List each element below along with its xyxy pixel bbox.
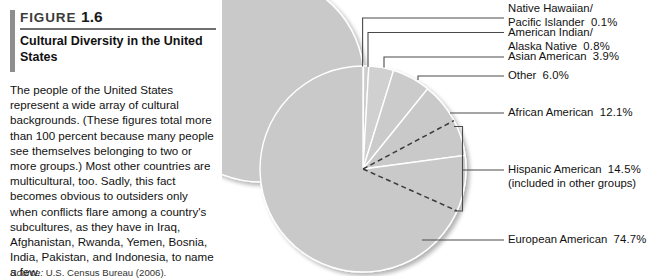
figure-caption-text: The people of the United States represen… [10, 82, 215, 280]
figure-divider [20, 28, 216, 30]
callout-text: Hispanic American [508, 163, 602, 175]
callout-text: African American [508, 106, 593, 118]
source-text: U.S. Census Bureau (2006). [46, 267, 167, 278]
pie-chart-area: Native Hawaiian/ Pacific Islander 0.1% A… [222, 0, 662, 276]
figure-caption-column: FIGURE 1.6 Cultural Diversity in the Uni… [0, 0, 222, 276]
callout-value: 6.0% [543, 69, 570, 81]
callout-asian-american: Asian American 3.9% [508, 50, 619, 64]
callout-european-american: European American 74.7% [508, 233, 647, 247]
figure-title: Cultural Diversity in the United States [10, 34, 205, 65]
callout-line-2: (included in other groups) [508, 177, 641, 191]
callout-line-1: African American 12.1% [508, 106, 633, 120]
figure-number: 1.6 [81, 8, 103, 25]
callout-value: 14.5% [608, 163, 641, 175]
callout-value: 3.9% [593, 50, 620, 62]
figure-source-note: Source: U.S. Census Bureau (2006). [10, 267, 215, 279]
leader-line-asian-american [384, 57, 504, 68]
callout-value: 74.7% [614, 233, 647, 245]
callout-text: Asian American [508, 50, 587, 62]
callout-line-1: European American 74.7% [508, 233, 647, 247]
figure-header: FIGURE 1.6 Cultural Diversity in the Uni… [10, 8, 210, 65]
figure-label-word: FIGURE [20, 10, 76, 25]
callout-hispanic-american: Hispanic American 14.5% (included in oth… [508, 163, 641, 190]
callout-value: 12.1% [600, 106, 633, 118]
callout-text: European American [508, 233, 607, 245]
source-prefix: Source: [10, 267, 43, 278]
callout-line-1: American Indian/ [508, 26, 610, 40]
callout-african-american: African American 12.1% [508, 106, 633, 120]
callout-line-1: Asian American 3.9% [508, 50, 619, 64]
leader-line-other [418, 76, 504, 80]
pie-slices-group [222, 0, 466, 272]
figure-label: FIGURE 1.6 [10, 8, 210, 26]
callout-line-1: Hispanic American 14.5% [508, 163, 641, 177]
callout-text: Other [508, 69, 536, 81]
callout-other: Other 6.0% [508, 69, 569, 83]
callout-line-1: Other 6.0% [508, 69, 569, 83]
callout-line-1: Native Hawaiian/ [508, 2, 617, 16]
leader-line-american-indian [368, 33, 504, 68]
